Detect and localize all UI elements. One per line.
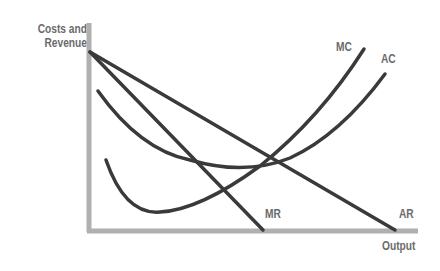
x-axis-label: Output bbox=[382, 239, 415, 253]
cost-revenue-diagram bbox=[0, 0, 440, 271]
mr-label: MR bbox=[265, 207, 281, 221]
mc-label: MC bbox=[336, 40, 352, 54]
ar-label: AR bbox=[399, 207, 414, 221]
ar-curve bbox=[90, 52, 395, 230]
ac-label: AC bbox=[381, 52, 396, 66]
mr-curve bbox=[90, 52, 263, 230]
ac-curve bbox=[98, 74, 385, 168]
